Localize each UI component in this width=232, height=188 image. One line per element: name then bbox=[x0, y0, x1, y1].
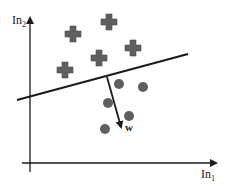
circle-marker bbox=[124, 111, 134, 121]
x-axis-label: In1 bbox=[201, 167, 215, 183]
cross-marker bbox=[91, 50, 107, 66]
weight-vector-label: w bbox=[125, 121, 133, 133]
cross-marker bbox=[65, 26, 81, 42]
cross-marker bbox=[57, 62, 73, 78]
class-crosses bbox=[57, 14, 141, 78]
y-axis-label: In2 bbox=[12, 13, 26, 29]
class-circles bbox=[100, 79, 148, 134]
circle-marker bbox=[103, 98, 113, 108]
perceptron-diagram: In2 In1 w bbox=[0, 0, 232, 188]
circle-marker bbox=[100, 124, 110, 134]
cross-marker bbox=[101, 14, 117, 30]
circle-marker bbox=[114, 79, 124, 89]
circle-marker bbox=[138, 82, 148, 92]
cross-marker bbox=[125, 40, 141, 56]
